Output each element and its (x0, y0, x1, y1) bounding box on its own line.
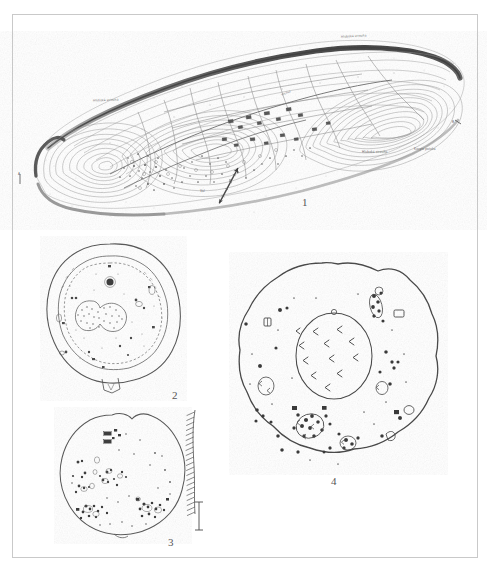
figure-1-contour-map (14, 16, 476, 226)
figure-4-number: 4 (331, 475, 337, 487)
figure-2-number: 2 (172, 389, 178, 401)
map-label-7: B (452, 120, 454, 124)
map-label-6: A (18, 172, 20, 176)
figure-3-number: 3 (168, 536, 174, 548)
figure-plate: Hluboká strouha Hluboká strouha Hluboká … (0, 0, 491, 575)
map-label-2: Hluboká strouha (362, 150, 388, 154)
figure-1-number: 1 (302, 196, 308, 208)
figure-3-scale-bar (190, 500, 208, 534)
map-label-3: Koryto potoka (414, 147, 436, 151)
map-label-5: Val (200, 189, 205, 193)
figure-3-rounded-enclosure (52, 410, 202, 545)
figure-2-oval-enclosure (32, 238, 192, 393)
figure-4-circular-enclosure (234, 258, 444, 473)
